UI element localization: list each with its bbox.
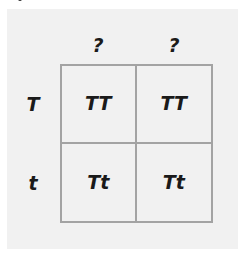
cell-r2-c1: Tt	[62, 144, 137, 222]
column-header-1: ?	[92, 36, 103, 55]
cell-genotype: TT	[161, 94, 187, 113]
cropped-caption-fragment	[18, 0, 22, 1]
cell-genotype: Tt	[163, 173, 185, 192]
cell-genotype: TT	[85, 94, 111, 113]
column-header-2: ?	[168, 36, 179, 55]
cell-genotype: Tt	[87, 173, 109, 192]
cell-r1-c2: TT	[137, 66, 212, 144]
punnett-grid: TT TT Tt Tt	[60, 64, 213, 223]
row-header-1: T	[27, 95, 40, 114]
cell-r1-c1: TT	[62, 66, 137, 144]
cell-r2-c2: Tt	[137, 144, 212, 222]
row-header-2: t	[28, 174, 37, 193]
